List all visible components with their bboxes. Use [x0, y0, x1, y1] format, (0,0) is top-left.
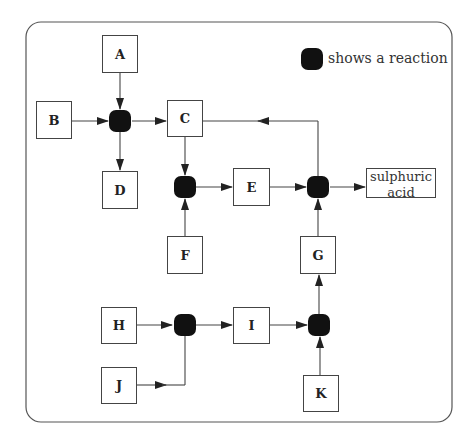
reaction-node-r4 — [174, 314, 196, 336]
product-label-line1: sulphuric — [367, 169, 435, 185]
reaction-node-r2 — [174, 176, 196, 198]
substance-k: K — [303, 375, 339, 412]
reaction-node-r1 — [109, 110, 131, 132]
substance-h: H — [101, 307, 137, 344]
diagram-lines — [0, 0, 474, 445]
substance-c: C — [167, 100, 203, 137]
substance-d: D — [102, 171, 138, 209]
diagram-frame — [26, 22, 452, 422]
product-sulphuric-acid: sulphuric acid — [366, 168, 436, 198]
reaction-node-r5 — [308, 314, 330, 336]
substance-g: G — [300, 236, 336, 274]
substance-a: A — [102, 35, 138, 73]
substance-b: B — [36, 101, 72, 139]
reaction-node-r3 — [307, 176, 329, 198]
product-label-line2: acid — [367, 185, 435, 201]
substance-e: E — [233, 168, 270, 206]
substance-j: J — [101, 367, 137, 404]
substance-f: F — [167, 236, 203, 274]
legend-reaction-icon — [301, 48, 323, 70]
substance-i: I — [233, 307, 270, 344]
legend-label: shows a reaction — [328, 50, 448, 66]
